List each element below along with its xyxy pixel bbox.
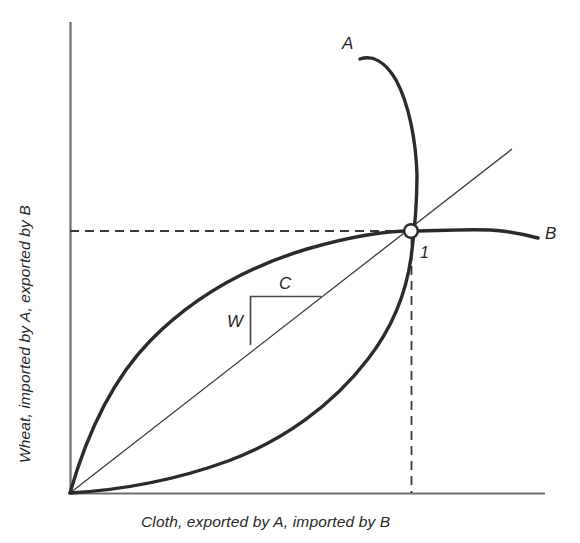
axes-group (70, 22, 545, 494)
triangle-horizontal-label: C (279, 274, 292, 293)
curve-a-label: A (341, 34, 353, 53)
triangle-vertical-label: W (227, 312, 245, 331)
offer-curve-b (70, 230, 538, 493)
equilibrium-point-label: 1 (420, 244, 429, 261)
y-axis-label: Wheat, imported by A, exported by B (16, 205, 33, 463)
offer-curve-diagram: A B 1 W C Cloth, exported by A, imported… (0, 0, 580, 543)
plot-canvas: A B 1 W C Cloth, exported by A, imported… (0, 0, 580, 543)
x-axis-label: Cloth, exported by A, imported by B (141, 513, 390, 530)
curve-b-label: B (545, 224, 556, 243)
equilibrium-point-marker (404, 224, 418, 238)
terms-of-trade-ray (70, 149, 512, 493)
price-ratio-triangle (250, 296, 321, 345)
